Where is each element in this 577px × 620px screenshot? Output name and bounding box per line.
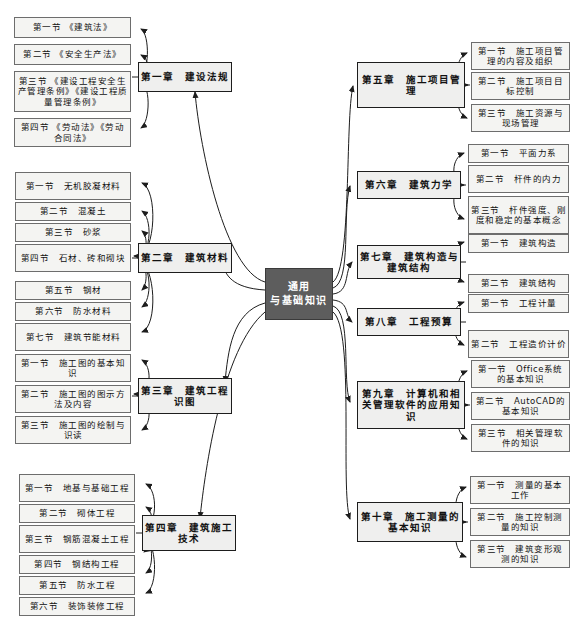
leaf-label: 第六节 装饰装修工程 — [22, 601, 132, 611]
leaf-label: 第一节 建筑构造 — [471, 238, 566, 248]
chapter-node-4[interactable]: 第四章 建筑施工技术 — [142, 515, 236, 551]
leaf-node-2-1[interactable]: 第一节 无机胶凝材料 — [15, 172, 131, 200]
chapter-label: 第十章 施工测量的基本知识 — [358, 511, 462, 533]
mindmap-canvas: 通用 与基础知识 第一章 建设法规 第一节 《建筑法》 第二节 《安全生产法》 … — [0, 0, 577, 620]
leaf-node-2-7[interactable]: 第七节 建筑节能材料 — [15, 323, 131, 351]
chapter-node-5[interactable]: 第五章 施工项目管理 — [357, 62, 465, 108]
chapter-label: 第八章 工程预算 — [358, 316, 460, 327]
root-label-line2: 与基础知识 — [266, 294, 332, 309]
leaf-label: 第一节 工程计量 — [471, 298, 566, 308]
leaf-node-4-4[interactable]: 第四节 钢结构工程 — [19, 555, 135, 574]
leaf-label: 第二节 杆件的内力 — [471, 174, 566, 184]
leaf-node-9-1[interactable]: 第一节 Office系统的基本知识 — [471, 360, 570, 388]
leaf-node-4-5[interactable]: 第五节 防水工程 — [19, 576, 135, 595]
leaf-label: 第四节 《劳动法》《劳动合同法》 — [17, 122, 128, 142]
leaf-node-1-1[interactable]: 第一节 《建筑法》 — [14, 17, 131, 38]
leaf-node-7-2[interactable]: 第二节 建筑结构 — [468, 274, 569, 293]
leaf-node-5-3[interactable]: 第三节 施工资源与现场管理 — [471, 104, 570, 132]
chapter-node-3[interactable]: 第三章 建筑工程识图 — [138, 378, 232, 414]
leaf-node-4-6[interactable]: 第六节 装饰装修工程 — [19, 597, 135, 616]
leaf-node-3-1[interactable]: 第一节 施工图的基本知识 — [15, 354, 131, 382]
leaf-node-3-2[interactable]: 第二节 施工图的图示方法及内容 — [15, 385, 131, 413]
leaf-node-6-2[interactable]: 第二节 杆件的内力 — [468, 165, 569, 193]
leaf-label: 第七节 建筑节能材料 — [18, 332, 128, 342]
leaf-label: 第二节 工程造价计价 — [471, 339, 566, 349]
chapter-node-9[interactable]: 第九章 计算机和相关管理软件的应用知识 — [357, 381, 465, 429]
leaf-label: 第一节 测量的基本工作 — [473, 480, 567, 500]
leaf-label: 第三节 施工资源与现场管理 — [474, 108, 567, 128]
leaf-label: 第三节 杆件强度、刚度和稳定的基本概念 — [471, 205, 566, 225]
leaf-label: 第三节 施工图的绘制与识读 — [18, 420, 128, 440]
leaf-label: 第二节 AutoCAD的基本知识 — [474, 396, 567, 416]
leaf-node-10-2[interactable]: 第二节 施工控制测量的知识 — [470, 508, 570, 536]
leaf-node-10-3[interactable]: 第三节 建筑变形观测的知识 — [470, 540, 570, 568]
leaf-label: 第二节 施工控制测量的知识 — [473, 512, 567, 532]
leaf-label: 第二节 《安全生产法》 — [17, 49, 128, 59]
leaf-label: 第五节 防水工程 — [22, 580, 132, 590]
chapter-label: 第四章 建筑施工技术 — [143, 522, 235, 544]
leaf-node-2-6[interactable]: 第六节 防水材料 — [15, 302, 131, 321]
leaf-label: 第一节 《建筑法》 — [17, 22, 128, 32]
leaf-node-1-2[interactable]: 第二节 《安全生产法》 — [14, 44, 131, 65]
leaf-node-2-5[interactable]: 第五节 钢材 — [15, 281, 131, 300]
leaf-label: 第三节 《建设工程安全生产管理条例》《建设工程质量管理条例》 — [17, 76, 128, 106]
leaf-node-5-2[interactable]: 第二节 施工项目目标控制 — [471, 72, 570, 100]
leaf-node-9-3[interactable]: 第三节 相关管理软件的知识 — [471, 424, 570, 452]
leaf-label: 第三节 相关管理软件的知识 — [474, 428, 567, 448]
leaf-label: 第三节 建筑变形观测的知识 — [473, 544, 567, 564]
leaf-label: 第一节 施工图的基本知识 — [18, 358, 128, 378]
leaf-node-7-1[interactable]: 第一节 建筑构造 — [468, 234, 569, 253]
leaf-label: 第二节 施工图的图示方法及内容 — [18, 389, 128, 409]
chapter-node-1[interactable]: 第一章 建设法规 — [138, 62, 232, 92]
leaf-node-10-1[interactable]: 第一节 测量的基本工作 — [470, 476, 570, 504]
root-node[interactable]: 通用 与基础知识 — [265, 268, 333, 320]
chapter-label: 第七章 建筑构造与建筑结构 — [358, 251, 460, 273]
leaf-node-5-1[interactable]: 第一节 施工项目管理的内容及组织 — [471, 42, 570, 70]
leaf-node-8-1[interactable]: 第一节 工程计量 — [468, 294, 569, 313]
leaf-node-9-2[interactable]: 第二节 AutoCAD的基本知识 — [471, 392, 570, 420]
chapter-label: 第三章 建筑工程识图 — [139, 385, 231, 407]
chapter-label: 第二章 建筑材料 — [139, 252, 231, 263]
leaf-label: 第二节 混凝土 — [18, 206, 128, 216]
chapter-label: 第五章 施工项目管理 — [358, 74, 464, 96]
leaf-node-4-2[interactable]: 第二节 砌体工程 — [19, 504, 135, 523]
leaf-label: 第一节 Office系统的基本知识 — [474, 364, 567, 384]
leaf-node-2-3[interactable]: 第三节 砂浆 — [15, 223, 131, 242]
leaf-node-2-4[interactable]: 第四节 石材、砖和砌块 — [15, 244, 131, 272]
leaf-node-8-2[interactable]: 第二节 工程造价计价 — [468, 330, 569, 358]
chapter-node-6[interactable]: 第六章 建筑力学 — [357, 171, 461, 199]
leaf-label: 第一节 施工项目管理的内容及组织 — [474, 46, 567, 66]
leaf-node-1-4[interactable]: 第四节 《劳动法》《劳动合同法》 — [14, 118, 131, 147]
leaf-label: 第二节 建筑结构 — [471, 278, 566, 288]
chapter-node-10[interactable]: 第十章 施工测量的基本知识 — [357, 502, 463, 542]
leaf-node-6-1[interactable]: 第一节 平面力系 — [468, 144, 569, 163]
chapter-node-7[interactable]: 第七章 建筑构造与建筑结构 — [357, 245, 461, 279]
leaf-label: 第二节 施工项目目标控制 — [474, 76, 567, 96]
leaf-label: 第一节 平面力系 — [471, 148, 566, 158]
leaf-label: 第六节 防水材料 — [18, 306, 128, 316]
leaf-label: 第一节 地基与基础工程 — [22, 483, 132, 493]
leaf-node-4-1[interactable]: 第一节 地基与基础工程 — [19, 474, 135, 502]
leaf-node-4-3[interactable]: 第三节 钢筋混凝土工程 — [19, 525, 135, 553]
leaf-label: 第四节 钢结构工程 — [22, 559, 132, 569]
leaf-node-2-2[interactable]: 第二节 混凝土 — [15, 202, 131, 221]
chapter-label: 第六章 建筑力学 — [358, 179, 460, 190]
chapter-label: 第一章 建设法规 — [139, 71, 231, 82]
leaf-label: 第一节 无机胶凝材料 — [18, 181, 128, 191]
root-label-line1: 通用 — [266, 280, 332, 295]
leaf-label: 第二节 砌体工程 — [22, 508, 132, 518]
leaf-node-3-3[interactable]: 第三节 施工图的绘制与识读 — [15, 416, 131, 444]
leaf-node-1-3[interactable]: 第三节 《建设工程安全生产管理条例》《建设工程质量管理条例》 — [14, 71, 131, 112]
leaf-label: 第四节 石材、砖和砌块 — [18, 253, 128, 263]
leaf-label: 第五节 钢材 — [18, 285, 128, 295]
chapter-label: 第九章 计算机和相关管理软件的应用知识 — [358, 388, 464, 422]
leaf-node-6-3[interactable]: 第三节 杆件强度、刚度和稳定的基本概念 — [468, 196, 569, 234]
chapter-node-8[interactable]: 第八章 工程预算 — [357, 308, 461, 336]
leaf-label: 第三节 钢筋混凝土工程 — [22, 534, 132, 544]
chapter-node-2[interactable]: 第二章 建筑材料 — [138, 243, 232, 273]
leaf-label: 第三节 砂浆 — [18, 227, 128, 237]
